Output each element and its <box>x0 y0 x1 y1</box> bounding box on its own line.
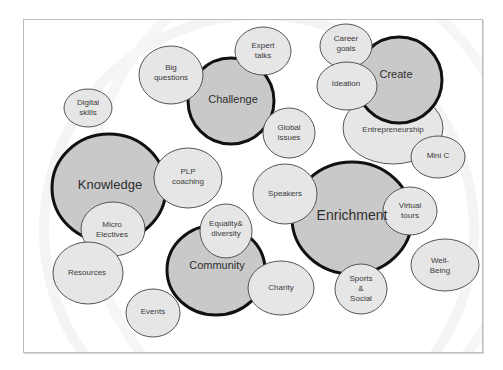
knowledge-label: Knowledge <box>78 177 142 193</box>
career-goals-label: Career goals <box>334 34 358 54</box>
community-label: Community <box>189 259 245 273</box>
sports-social-label: Sports & Social <box>349 274 372 304</box>
micro-electives-label: Micro Electives <box>96 220 128 240</box>
challenge-label: Challenge <box>208 93 258 107</box>
virtual-tours-label: Virtual tours <box>399 201 422 221</box>
entrepreneurship-label: Entrepreneurship <box>362 125 423 135</box>
digital-skills-label: Digital skills <box>77 98 99 118</box>
global-issues-label: Global issues <box>277 123 300 143</box>
speakers-label: Speakers <box>268 189 302 199</box>
expert-talks-label: Expert talks <box>251 41 274 61</box>
events-label: Events <box>141 307 165 317</box>
resources-label: Resources <box>68 268 106 278</box>
big-questions-label: Big questions <box>154 63 188 83</box>
well-being-label: Well- Being <box>430 256 450 276</box>
charity-label: Charity <box>268 283 293 293</box>
ideation-label: Ideation <box>332 79 360 89</box>
enrichment-label: Enrichment <box>317 207 388 225</box>
mini-c-label: Mini C <box>427 151 450 161</box>
create-label: Create <box>379 68 412 82</box>
plp-coaching-label: PLP coaching <box>172 167 204 187</box>
equality-diversity-label: Equality& diversity <box>209 219 243 239</box>
